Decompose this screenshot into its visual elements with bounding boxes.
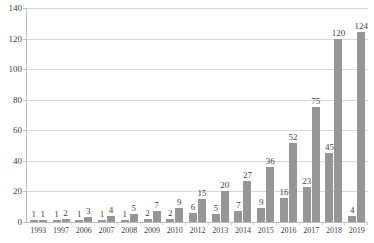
x-tick-mark xyxy=(72,222,95,225)
bar-value-label: 3 xyxy=(86,207,91,216)
y-tick-label-100: 100 xyxy=(0,65,22,74)
x-tick-mark xyxy=(232,222,255,225)
bar-value-label: 9 xyxy=(259,198,264,207)
x-tick-mark xyxy=(163,222,186,225)
x-tick-label-2007: 2007 xyxy=(95,226,118,235)
bar-group: 4124 xyxy=(345,8,368,222)
x-tick-mark xyxy=(50,222,73,225)
bar-value-label: 5 xyxy=(213,204,218,213)
y-tick-label-80: 80 xyxy=(0,96,22,105)
x-tick-label-2010: 2010 xyxy=(163,226,186,235)
x-tick-mark xyxy=(323,222,346,225)
x-tick-mark xyxy=(118,222,141,225)
x-tick-mark xyxy=(141,222,164,225)
bar-value-label: 1 xyxy=(41,210,46,219)
bar-value-label: 1 xyxy=(123,210,128,219)
bar-value-label: 2 xyxy=(145,209,150,218)
bar-group: 12 xyxy=(50,8,73,222)
y-tick-label-20: 20 xyxy=(0,187,22,196)
x-tick-label-1997: 1997 xyxy=(50,226,73,235)
bar-group: 936 xyxy=(254,8,277,222)
bar-value-label: 23 xyxy=(302,177,311,186)
bar-value-label: 2 xyxy=(168,209,173,218)
bar-group: 1652 xyxy=(277,8,300,222)
bar-group: 14 xyxy=(95,8,118,222)
y-tick-mark-0 xyxy=(23,222,26,223)
bar: 6 xyxy=(189,213,197,222)
bar-value-label: 45 xyxy=(325,143,334,152)
bar-group: 615 xyxy=(186,8,209,222)
bar: 7 xyxy=(234,211,242,222)
x-tick-mark xyxy=(95,222,118,225)
x-tick-label-2016: 2016 xyxy=(277,226,300,235)
bar: 23 xyxy=(303,187,311,222)
bar: 45 xyxy=(325,153,333,222)
bar: 36 xyxy=(266,167,274,222)
bar-value-label: 120 xyxy=(332,29,346,38)
bar-value-label: 1 xyxy=(100,210,105,219)
x-tick-mark xyxy=(277,222,300,225)
bar: 75 xyxy=(312,107,320,222)
y-tick-mark-140 xyxy=(23,8,26,9)
x-tick-label-2008: 2008 xyxy=(118,226,141,235)
bar: 20 xyxy=(221,191,229,222)
bar: 120 xyxy=(334,39,342,222)
x-tick-label-2014: 2014 xyxy=(232,226,255,235)
bar-value-label: 20 xyxy=(220,181,229,190)
bar-value-label: 7 xyxy=(154,201,159,210)
bar-value-label: 9 xyxy=(177,198,182,207)
x-tick-label-2017: 2017 xyxy=(300,226,323,235)
bar-group: 2375 xyxy=(300,8,323,222)
bar-value-label: 75 xyxy=(311,97,320,106)
bar-group: 15 xyxy=(118,8,141,222)
bar-chart: 020406080100120140 111213141527296155207… xyxy=(0,0,374,243)
bar: 5 xyxy=(212,214,220,222)
x-tick-mark xyxy=(186,222,209,225)
x-tick-mark xyxy=(254,222,277,225)
x-axis-ticks xyxy=(27,222,368,225)
x-tick-label-2018: 2018 xyxy=(323,226,346,235)
bar: 9 xyxy=(257,208,265,222)
x-tick-label-2015: 2015 xyxy=(254,226,277,235)
bar-group: 727 xyxy=(232,8,255,222)
bar: 27 xyxy=(243,181,251,222)
bar-value-label: 4 xyxy=(350,206,355,215)
bar: 9 xyxy=(175,208,183,222)
y-tick-mark-80 xyxy=(23,100,26,101)
x-tick-mark xyxy=(345,222,368,225)
bar-group: 45120 xyxy=(323,8,346,222)
bar-value-label: 15 xyxy=(198,189,207,198)
bar: 5 xyxy=(130,214,138,222)
bar-group: 11 xyxy=(27,8,50,222)
bar-value-label: 36 xyxy=(266,157,275,166)
bar-group: 29 xyxy=(163,8,186,222)
bar: 15 xyxy=(198,199,206,222)
bar-value-label: 16 xyxy=(279,188,288,197)
y-tick-label-120: 120 xyxy=(0,35,22,44)
bar-value-label: 7 xyxy=(236,201,241,210)
bar-group: 13 xyxy=(72,8,95,222)
x-tick-label-2006: 2006 xyxy=(72,226,95,235)
x-tick-label-2009: 2009 xyxy=(141,226,164,235)
x-tick-label-2012: 2012 xyxy=(186,226,209,235)
bar: 52 xyxy=(289,143,297,222)
bar-value-label: 52 xyxy=(288,133,297,142)
y-tick-mark-120 xyxy=(23,39,26,40)
bar-group: 520 xyxy=(209,8,232,222)
y-tick-mark-100 xyxy=(23,69,26,70)
y-tick-label-60: 60 xyxy=(0,126,22,135)
y-tick-label-140: 140 xyxy=(0,4,22,13)
bar-value-label: 2 xyxy=(63,209,68,218)
x-tick-label-2019: 2019 xyxy=(345,226,368,235)
y-tick-mark-20 xyxy=(23,191,26,192)
bar: 7 xyxy=(153,211,161,222)
y-tick-label-40: 40 xyxy=(0,157,22,166)
y-tick-label-0: 0 xyxy=(0,218,22,227)
bar-group: 27 xyxy=(141,8,164,222)
x-axis-labels: 1993199720062007200820092010201220132014… xyxy=(27,226,368,235)
bar-value-label: 124 xyxy=(354,22,368,31)
bar: 16 xyxy=(280,198,288,222)
y-tick-mark-40 xyxy=(23,161,26,162)
x-tick-label-2013: 2013 xyxy=(209,226,232,235)
bar-value-label: 27 xyxy=(243,171,252,180)
